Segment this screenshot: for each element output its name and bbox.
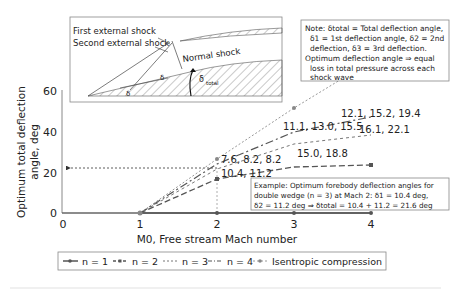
y-axis-title-line1: Optimum total deflection [15, 86, 27, 218]
first-shock-label: First external shock [73, 26, 156, 36]
note-line-6: shock wave [310, 73, 354, 82]
y-axis-title-line2: angle, deg [28, 124, 40, 180]
delta-total-sub: total [206, 80, 219, 86]
x-tick-labels: 0 1 2 3 4 [60, 218, 375, 231]
y-tick-labels: 60 40 20 0 [43, 85, 57, 220]
note-line-5: loss in total pressure across each [310, 64, 435, 73]
annotation-m2-n4: 7.6, 8.2, 8.2 [221, 154, 281, 165]
second-shock-label: Second external shock [73, 38, 169, 48]
y-tick-0: 0 [50, 207, 57, 220]
legend-n4: n = 4 [227, 256, 253, 267]
annotation-m3-n4: 11.1, 13.0, 15.5 [283, 121, 363, 132]
note-line-2: δ1 = 1st deflection angle, δ2 = 2nd [310, 34, 445, 43]
legend: n = 1 n = 2 n = 3 n = 4 Isentropic compr… [58, 252, 386, 270]
reference-lines [70, 168, 217, 213]
legend-n3: n = 3 [182, 256, 208, 267]
annotation-m2-n3: 10.4, 11.2 [221, 168, 272, 179]
legend-n2: n = 2 [132, 256, 158, 267]
legend-isentropic: Isentropic compression [272, 256, 382, 267]
x-tick-0: 0 [60, 218, 67, 231]
delta-total-label: δ [199, 75, 204, 84]
example-box: Example: Optimum forebody deflection ang… [251, 178, 449, 210]
chart-canvas: 60 40 20 0 0 1 2 3 4 Optimum total defle… [0, 0, 451, 292]
annotation-m4-n3: 16.1, 22.1 [359, 124, 410, 135]
x-tick-3: 3 [291, 218, 298, 231]
x-tick-4: 4 [368, 218, 375, 231]
example-line-2: double wedge (n = 3) at Mach 2: δ1 = 10.… [254, 191, 428, 200]
x-axis-title: M0, Free stream Mach number [137, 233, 298, 245]
x-tick-1: 1 [137, 218, 144, 231]
annotation-m4-n4: 12.1, 15.2, 19.4 [341, 108, 421, 119]
y-tick-20: 20 [43, 167, 57, 180]
x-tick-2: 2 [214, 218, 221, 231]
note-box: Note: δtotal = Total deflection angle, δ… [301, 20, 449, 82]
y-tick-60: 60 [43, 85, 57, 98]
example-line-3: δ2 = 11.2 deg ⇒ δtotal = 10.4 + 11.2 = 2… [254, 201, 432, 210]
y-tick-40: 40 [43, 126, 57, 139]
annotation-m3-n3: 15.0, 18.8 [297, 148, 348, 159]
example-line-1: Example: Optimum forebody deflection ang… [254, 181, 434, 190]
delta2-label: δ [160, 74, 164, 82]
legend-n1: n = 1 [82, 256, 108, 267]
data-annotations: 7.6, 8.2, 8.2 10.4, 11.2 11.1, 13.0, 15.… [221, 108, 421, 179]
note-line-3: deflection, δ3 = 3rd deflection. [310, 44, 427, 53]
note-line-4: Optimum deflection angle ⇒ equal [305, 54, 435, 63]
inlet-diagram: First external shock Second external sho… [70, 17, 282, 102]
note-line-1: Note: δtotal = Total deflection angle, [305, 24, 443, 33]
delta1-label: δ [126, 90, 130, 98]
y-axis-title: Optimum total deflection angle, deg [15, 86, 40, 218]
